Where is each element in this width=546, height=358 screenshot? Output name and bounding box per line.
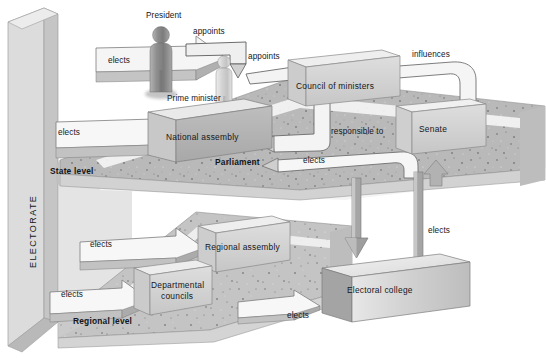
label-elects-electoral-college-right: elects <box>428 226 450 235</box>
label-appoints-council: appoints <box>248 52 280 61</box>
label-elects-president: elects <box>108 56 130 65</box>
label-elects-senate: elects <box>303 156 325 165</box>
label-elects-regional-assembly: elects <box>90 240 112 249</box>
figure-president[interactable] <box>145 27 177 99</box>
label-regional-assembly: Regional assembly <box>205 243 280 253</box>
label-president: President <box>146 11 182 20</box>
label-responsible-to: responsible to <box>331 127 383 136</box>
label-appoints-prime-minister: appoints <box>193 27 225 36</box>
label-national-assembly: National assembly <box>166 133 239 143</box>
box-council-of-ministers[interactable] <box>288 50 400 106</box>
label-electoral-college: Electoral college <box>347 286 413 296</box>
label-regional-level: Regional level <box>73 317 132 327</box>
label-departmental-councils-line2: councils <box>161 292 193 302</box>
label-parliament: Parliament <box>215 158 260 168</box>
label-elects-electoral-college-left: elects <box>287 311 309 320</box>
label-elects-assembly: elects <box>58 128 80 137</box>
electorate-label: ELECTORATE <box>28 195 38 268</box>
label-senate: Senate <box>419 125 447 135</box>
label-council-of-ministers: Council of ministers <box>296 82 374 92</box>
label-influences: influences <box>412 50 450 59</box>
label-prime-minister: Prime minister <box>167 94 221 103</box>
label-departmental-councils-line1: Departmental <box>151 281 204 291</box>
diagram-canvas: ELECTORATE President appoints appoints i… <box>0 0 546 358</box>
label-elects-departmental-councils: elects <box>61 290 83 299</box>
label-state-level: State level <box>50 167 94 177</box>
